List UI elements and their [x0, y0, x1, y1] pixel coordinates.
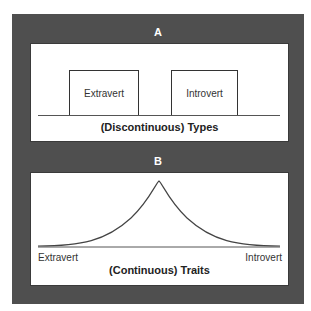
- types-baseline: [38, 115, 280, 116]
- extravert-type-label: Extravert: [84, 88, 124, 99]
- extravert-type-box: Extravert: [69, 70, 139, 116]
- figure-frame: A Extravert Introvert (Discontinuous) Ty…: [12, 14, 304, 304]
- introvert-type-label: Introvert: [186, 88, 223, 99]
- panel-b-letter: B: [12, 155, 304, 167]
- panel-a-types: Extravert Introvert (Discontinuous) Type…: [30, 43, 289, 142]
- types-caption: (Discontinuous) Types: [31, 121, 288, 133]
- extravert-trait-label: Extravert: [38, 252, 78, 263]
- traits-caption: (Continuous) Traits: [31, 264, 288, 276]
- introvert-type-box: Introvert: [171, 70, 238, 116]
- panel-b-traits: Extravert Introvert (Continuous) Traits: [30, 172, 289, 286]
- panel-a-letter: A: [12, 26, 304, 38]
- introvert-trait-label: Introvert: [245, 252, 282, 263]
